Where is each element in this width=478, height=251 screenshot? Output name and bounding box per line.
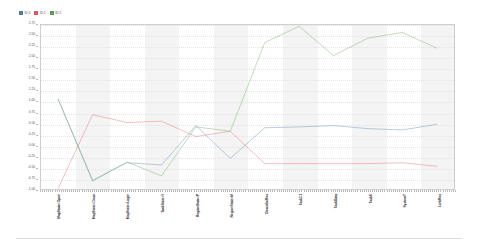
x-minor-tick xyxy=(198,190,199,192)
x-tick-label: TaskData xyxy=(334,194,338,208)
x-minor-tick xyxy=(434,190,435,192)
x-minor-tick xyxy=(140,190,141,192)
x-minor-tick xyxy=(345,190,346,192)
x-minor-tick xyxy=(77,190,78,192)
x-minor-tick xyxy=(362,190,363,192)
x-axis: MapState=OpenMapState=CloseMapState=Logi… xyxy=(40,190,455,245)
x-minor-tick xyxy=(374,190,375,192)
x-minor-tick xyxy=(447,190,448,192)
x-minor-tick xyxy=(82,190,83,192)
x-minor-tick xyxy=(208,190,209,192)
y-tick-label: -1.00 xyxy=(28,188,35,192)
legend-swatch-id-2 xyxy=(50,11,54,15)
x-minor-tick xyxy=(368,190,369,192)
y-tick-mark xyxy=(36,46,38,47)
x-minor-tick xyxy=(387,190,388,192)
x-minor-tick xyxy=(206,190,207,192)
x-minor-tick xyxy=(351,190,352,192)
y-tick-label: 1.75 xyxy=(29,66,35,70)
x-minor-tick xyxy=(52,190,53,192)
x-minor-tick xyxy=(200,190,201,192)
x-minor-tick xyxy=(274,190,275,192)
x-minor-tick xyxy=(135,190,136,192)
legend-entry[interactable]: ID 2 xyxy=(50,11,61,15)
x-minor-tick xyxy=(214,190,215,192)
x-minor-tick xyxy=(328,190,329,192)
x-minor-tick xyxy=(75,190,76,192)
x-minor-tick xyxy=(67,190,68,192)
x-minor-tick xyxy=(129,190,130,192)
x-minor-tick xyxy=(42,190,43,192)
x-minor-tick xyxy=(407,190,408,192)
x-minor-tick xyxy=(306,190,307,192)
x-minor-tick xyxy=(285,190,286,192)
x-minor-tick xyxy=(50,190,51,192)
y-tick-label: 2.75 xyxy=(29,22,35,26)
x-minor-tick xyxy=(376,190,377,192)
x-minor-tick xyxy=(297,190,298,192)
x-minor-tick xyxy=(115,190,116,192)
x-minor-tick xyxy=(283,190,284,192)
x-minor-tick xyxy=(411,190,412,192)
x-minor-tick xyxy=(92,190,93,192)
legend-label-id-2: ID 2 xyxy=(55,11,61,15)
series-lines xyxy=(41,25,454,189)
x-minor-tick xyxy=(397,190,398,192)
x-minor-tick xyxy=(142,190,143,192)
x-minor-tick xyxy=(65,190,66,192)
x-minor-tick xyxy=(123,190,124,192)
x-minor-tick xyxy=(61,190,62,192)
x-minor-tick xyxy=(138,190,139,192)
x-minor-tick xyxy=(69,190,70,192)
series-line xyxy=(58,26,437,181)
x-minor-tick xyxy=(245,190,246,192)
y-tick-mark xyxy=(36,190,38,191)
x-minor-tick xyxy=(399,190,400,192)
y-tick-mark xyxy=(36,79,38,80)
x-minor-tick xyxy=(167,190,168,192)
x-tick-label: TaskState=0 xyxy=(161,194,165,213)
x-minor-tick xyxy=(169,190,170,192)
x-minor-tick xyxy=(440,190,441,192)
legend-entry[interactable]: ID 0 xyxy=(19,11,30,15)
x-minor-tick xyxy=(291,190,292,192)
x-minor-tick xyxy=(337,190,338,192)
x-minor-tick xyxy=(256,190,257,192)
x-minor-tick xyxy=(424,190,425,192)
x-minor-tick xyxy=(455,190,456,192)
x-minor-tick xyxy=(316,190,317,192)
x-minor-tick xyxy=(318,190,319,192)
x-minor-tick xyxy=(426,190,427,192)
x-minor-tick xyxy=(349,190,350,192)
x-minor-tick xyxy=(324,190,325,192)
x-minor-tick xyxy=(73,190,74,192)
x-minor-tick xyxy=(148,190,149,192)
x-minor-tick xyxy=(432,190,433,192)
x-minor-tick xyxy=(428,190,429,192)
x-minor-tick xyxy=(389,190,390,192)
x-minor-tick xyxy=(196,190,197,192)
y-tick-mark xyxy=(36,168,38,169)
x-minor-tick xyxy=(98,190,99,192)
x-minor-tick xyxy=(451,190,452,192)
legend-label-id-1: ID 1 xyxy=(40,11,46,15)
x-minor-tick xyxy=(202,190,203,192)
y-tick-label: 1.50 xyxy=(29,78,35,82)
x-minor-tick xyxy=(304,190,305,192)
y-tick-mark xyxy=(36,135,38,136)
y-tick-mark xyxy=(36,24,38,25)
x-minor-tick xyxy=(237,190,238,192)
x-minor-tick xyxy=(393,190,394,192)
y-tick-label: 1.00 xyxy=(29,100,35,104)
x-minor-tick xyxy=(223,190,224,192)
x-minor-tick xyxy=(194,190,195,192)
legend-entry[interactable]: ID 1 xyxy=(34,11,45,15)
x-minor-tick xyxy=(252,190,253,192)
x-minor-tick xyxy=(418,190,419,192)
x-minor-tick xyxy=(177,190,178,192)
y-tick-mark xyxy=(36,179,38,180)
x-tick-label: MapState=Open xyxy=(57,194,61,219)
x-minor-tick xyxy=(175,190,176,192)
x-minor-tick xyxy=(171,190,172,192)
x-minor-tick xyxy=(191,190,192,192)
